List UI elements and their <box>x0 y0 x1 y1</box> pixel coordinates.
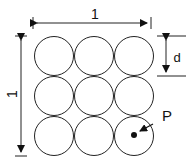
circle <box>35 117 74 156</box>
circle <box>75 37 114 76</box>
point-p: P <box>131 107 172 138</box>
circle <box>115 37 154 76</box>
circle <box>115 77 154 116</box>
circle <box>35 37 74 76</box>
circle <box>75 77 114 116</box>
diameter-dimension: d <box>157 36 186 76</box>
height-dimension: 1 <box>4 36 27 156</box>
circle-grid <box>35 37 154 156</box>
circle <box>35 77 74 116</box>
point-label: P <box>162 107 172 124</box>
width-dimension: 1 <box>33 6 151 29</box>
width-label: 1 <box>91 6 99 22</box>
diagram-canvas: 1 1 d P <box>0 0 187 166</box>
circle <box>75 117 114 156</box>
point-dot <box>131 132 137 138</box>
height-label: 1 <box>4 90 20 98</box>
diameter-label: d <box>173 50 180 65</box>
